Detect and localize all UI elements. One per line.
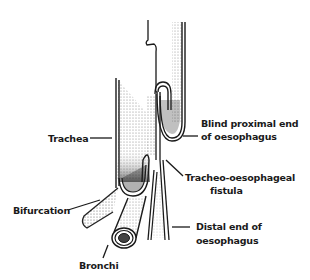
leader-fistula xyxy=(166,160,183,176)
label-fistula-line1: Tracheo-oesophageal xyxy=(185,172,295,183)
label-bronchi: Bronchi xyxy=(79,260,118,271)
label-trachea: Trachea xyxy=(48,133,88,144)
label-blind-proximal-line1: Blind proximal end xyxy=(201,118,298,129)
distal-oesophagus xyxy=(148,160,169,240)
label-fistula-line2: fistula xyxy=(210,185,243,196)
label-distal-line1: Distal end of xyxy=(196,221,262,232)
label-distal-line2: oesophagus xyxy=(196,235,258,246)
leader-bronchi xyxy=(103,245,108,258)
trachea xyxy=(115,78,150,196)
label-blind-proximal-line2: of oesophagus xyxy=(201,131,277,142)
bronchi xyxy=(83,188,146,248)
label-bifurcation: Bifurcation xyxy=(13,205,70,216)
